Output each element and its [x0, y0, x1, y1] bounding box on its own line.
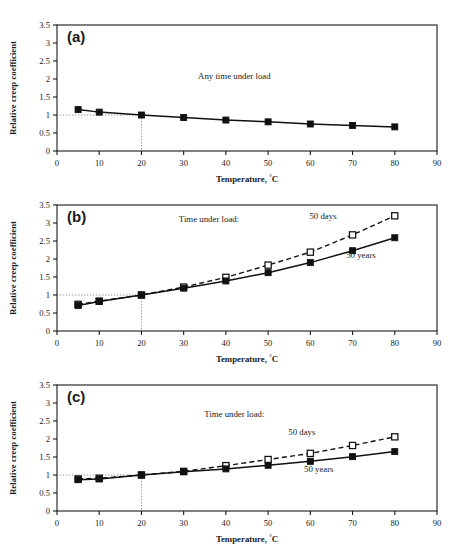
plot-frame	[57, 205, 437, 331]
x-tick-label: 70	[348, 518, 357, 528]
x-axis-title: Temperature, °C	[216, 173, 278, 184]
panel-a-plot: 010203040506070809000.511.522.533.5Tempe…	[8, 20, 441, 184]
data-point-50-years	[96, 298, 102, 304]
series-line-any-time-under-load	[78, 110, 395, 127]
x-tick-label: 30	[179, 518, 188, 528]
series-line-50-years	[78, 452, 395, 480]
y-axis-title: Relative creep coefficient	[8, 41, 18, 135]
annotation-50-years: 50 years	[346, 250, 376, 260]
panel-letter: (a)	[67, 28, 85, 45]
annotation-time-under-load: Time under load:	[204, 409, 264, 419]
data-point-50-days	[349, 232, 355, 238]
y-tick-label: 2	[46, 434, 50, 444]
x-tick-label: 40	[222, 158, 231, 168]
panel-b-plot: 010203040506070809000.511.522.533.5Tempe…	[8, 200, 441, 364]
y-tick-label: 0.5	[39, 308, 50, 318]
data-point-50-years	[75, 302, 81, 308]
x-tick-label: 0	[55, 158, 59, 168]
data-point-50-years	[96, 476, 102, 482]
y-tick-label: 2.5	[39, 416, 50, 426]
panel-letter: (c)	[67, 388, 85, 405]
y-tick-label: 1.5	[39, 272, 50, 282]
series-line-50-years	[78, 238, 395, 306]
x-tick-label: 90	[433, 338, 442, 348]
y-tick-label: 0.5	[39, 488, 50, 498]
x-tick-label: 40	[222, 518, 231, 528]
y-tick-label: 2	[46, 74, 50, 84]
x-tick-label: 10	[95, 158, 104, 168]
y-axis-title: Relative creep coefficient	[8, 401, 18, 495]
y-tick-label: 3	[46, 38, 50, 48]
y-tick-label: 2.5	[39, 236, 50, 246]
y-tick-label: 0.5	[39, 128, 50, 138]
data-point-50-years	[350, 454, 356, 460]
y-tick-label: 1	[46, 110, 50, 120]
data-point-any-time-under-load	[75, 107, 81, 113]
y-tick-label: 3.5	[39, 200, 50, 210]
x-tick-label: 0	[55, 518, 59, 528]
x-tick-label: 30	[179, 338, 188, 348]
annotation-time-under-load: Time under load:	[179, 214, 239, 224]
x-tick-label: 50	[264, 338, 273, 348]
data-point-50-years	[181, 469, 187, 475]
data-point-50-years	[181, 285, 187, 291]
data-point-any-time-under-load	[181, 115, 187, 121]
y-tick-label: 0	[46, 506, 50, 516]
data-point-50-days	[349, 442, 355, 448]
x-tick-label: 70	[348, 158, 357, 168]
data-point-any-time-under-load	[307, 121, 313, 127]
x-tick-label: 40	[222, 338, 231, 348]
x-tick-label: 60	[306, 158, 315, 168]
panel-b-svg: 010203040506070809000.511.522.533.5Tempe…	[0, 188, 457, 368]
y-tick-label: 2	[46, 254, 50, 264]
x-tick-label: 0	[55, 338, 59, 348]
data-point-50-years	[223, 466, 229, 472]
y-tick-label: 3.5	[39, 380, 50, 390]
panel-a-svg: 010203040506070809000.511.522.533.5Tempe…	[0, 8, 457, 188]
panel-c-svg: 010203040506070809000.511.522.533.5Tempe…	[0, 368, 457, 549]
panel-c-plot: 010203040506070809000.511.522.533.5Tempe…	[8, 380, 441, 544]
data-point-50-years	[392, 235, 398, 241]
data-point-50-years	[265, 270, 271, 276]
x-tick-label: 10	[95, 518, 104, 528]
chart-panel-b: 010203040506070809000.511.522.533.5Tempe…	[0, 188, 457, 368]
x-tick-label: 70	[348, 338, 357, 348]
x-tick-label: 50	[264, 518, 273, 528]
y-tick-label: 1	[46, 470, 50, 480]
data-point-50-years	[138, 472, 144, 478]
y-tick-label: 1.5	[39, 92, 50, 102]
y-tick-label: 1	[46, 290, 50, 300]
x-tick-label: 90	[433, 158, 442, 168]
y-tick-label: 3	[46, 398, 50, 408]
y-tick-label: 0	[46, 326, 50, 336]
x-tick-label: 80	[390, 158, 399, 168]
y-tick-label: 0	[46, 146, 50, 156]
panel-letter: (b)	[67, 208, 86, 225]
x-tick-label: 80	[390, 518, 399, 528]
x-tick-label: 20	[137, 158, 146, 168]
data-point-50-days	[392, 434, 398, 440]
figure-creep-coefficient-panels: 010203040506070809000.511.522.533.5Tempe…	[0, 0, 457, 549]
x-tick-label: 10	[95, 338, 104, 348]
y-axis-title: Relative creep coefficient	[8, 221, 18, 315]
data-point-50-days	[307, 450, 313, 456]
data-point-50-years	[265, 462, 271, 468]
plot-frame	[57, 25, 437, 151]
x-axis-title: Temperature, °C	[216, 353, 278, 364]
annotation-50-days: 50 days	[309, 211, 337, 221]
plot-frame	[57, 385, 437, 511]
data-point-50-years	[75, 477, 81, 483]
y-tick-label: 1.5	[39, 452, 50, 462]
data-point-any-time-under-load	[138, 112, 144, 118]
x-axis-title: Temperature, °C	[216, 533, 278, 544]
x-tick-label: 60	[306, 518, 315, 528]
data-point-any-time-under-load	[350, 122, 356, 128]
x-tick-label: 90	[433, 518, 442, 528]
data-point-any-time-under-load	[96, 109, 102, 115]
data-point-50-days	[265, 262, 271, 268]
data-point-50-days	[265, 456, 271, 462]
x-tick-label: 50	[264, 158, 273, 168]
data-point-50-days	[392, 213, 398, 219]
data-point-any-time-under-load	[265, 119, 271, 125]
x-tick-label: 80	[390, 338, 399, 348]
